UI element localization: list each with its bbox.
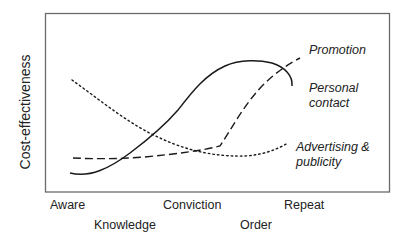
x-tick-conviction: Conviction <box>163 198 221 212</box>
series-label-personal-line1: Personal <box>309 81 358 96</box>
series-label-advertising-line1: Advertising & <box>296 140 370 155</box>
x-tick-knowledge: Knowledge <box>94 218 156 232</box>
chart: Cost-effectiveness Aware Conviction Repe… <box>0 0 408 244</box>
x-tick-aware: Aware <box>50 198 85 212</box>
series-label-personal-contact: Personal contact <box>309 81 358 111</box>
series-label-personal-line2: contact <box>309 96 358 111</box>
series-label-advertising-line2: publicity <box>296 155 370 170</box>
x-tick-order: Order <box>240 218 272 232</box>
y-axis-label: Cost-effectiveness <box>17 55 33 170</box>
series-label-promotion: Promotion <box>309 43 366 58</box>
series-label-advertising-publicity: Advertising & publicity <box>296 140 370 170</box>
x-tick-repeat: Repeat <box>284 198 324 212</box>
series-advertising-publicity-line <box>72 80 288 156</box>
series-promotion-line <box>70 61 292 175</box>
series-personal-contact-line <box>73 58 300 159</box>
